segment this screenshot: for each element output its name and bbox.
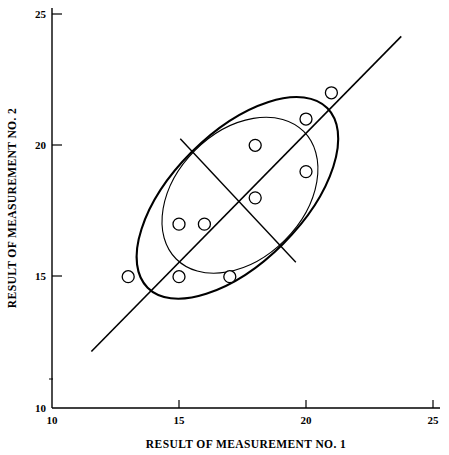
x-axis-tick-labels: 10 15 20 25 — [47, 414, 440, 426]
data-point — [122, 271, 134, 283]
annotation-layer — [91, 36, 401, 351]
data-point — [249, 192, 261, 204]
data-point — [300, 113, 312, 125]
x-axis-title: RESULT OF MEASUREMENT NO. 1 — [146, 438, 346, 450]
y-tick-label-15: 15 — [35, 270, 47, 282]
data-point — [249, 139, 261, 151]
data-points-layer — [122, 87, 337, 283]
y-axis-tick-labels: 25 20 15 10 — [35, 8, 47, 414]
plot-canvas: 25 20 15 10 10 15 20 25 RESULT OF MEASUR… — [0, 0, 449, 455]
scatter-plot-figure: 25 20 15 10 10 15 20 25 RESULT OF MEASUR… — [0, 0, 449, 455]
x-axis-ticks — [179, 400, 433, 408]
x-tick-label-20: 20 — [301, 414, 313, 426]
data-point — [198, 218, 210, 230]
y-tick-label-25: 25 — [35, 8, 47, 20]
data-point — [173, 271, 185, 283]
data-point — [300, 166, 312, 178]
x-tick-label-25: 25 — [428, 414, 440, 426]
data-point — [173, 218, 185, 230]
y-axis-title: RESULT OF MEASUREMENT NO. 2 — [6, 108, 18, 308]
data-point — [224, 271, 236, 283]
y-axis-ticks — [49, 14, 62, 379]
outer-confidence-ellipse — [102, 62, 373, 333]
x-tick-label-10: 10 — [47, 414, 59, 426]
inner-confidence-ellipse — [131, 87, 348, 304]
y-tick-label-10: 10 — [35, 402, 47, 414]
x-tick-label-15: 15 — [174, 414, 186, 426]
y-tick-label-20: 20 — [35, 139, 47, 151]
identity-line — [91, 36, 401, 351]
data-point — [325, 87, 337, 99]
